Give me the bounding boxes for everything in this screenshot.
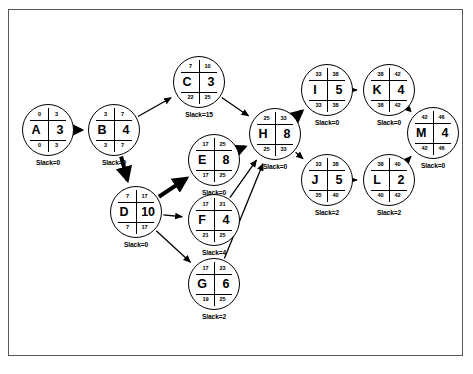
node-b-late-finish: 7 xyxy=(114,143,131,149)
node-e-duration: 8 xyxy=(215,154,237,166)
node-i-duration: 5 xyxy=(328,84,350,96)
node-d-duration: 10 xyxy=(137,206,159,218)
activity-node-d: 717D10717 xyxy=(110,186,162,238)
activity-node-k: 3842K43842 xyxy=(363,64,415,116)
node-j-late-finish: 40 xyxy=(327,193,344,199)
node-a-duration: 3 xyxy=(49,124,71,136)
activity-node-g: 1723G61925 xyxy=(188,258,240,310)
slack-label-l: Slack=2 xyxy=(353,209,425,216)
slack-label-h: Slack=0 xyxy=(239,163,311,170)
slack-label-b: Slack=0 xyxy=(78,159,150,166)
activity-node-l: 3840L24042 xyxy=(363,154,415,206)
node-g-early-start: 17 xyxy=(197,266,214,272)
activity-node-a: 03A303 xyxy=(22,104,74,156)
node-g-duration: 6 xyxy=(215,278,237,290)
node-b-duration: 4 xyxy=(115,124,137,136)
node-d-late-finish: 17 xyxy=(136,225,153,231)
node-b-early-start: 3 xyxy=(97,112,114,118)
slack-label-d: Slack=0 xyxy=(100,241,172,248)
node-d-late-start: 7 xyxy=(119,225,136,231)
activity-node-j: 3338J53540 xyxy=(301,154,353,206)
node-j-label: J xyxy=(304,174,326,186)
node-k-late-start: 38 xyxy=(372,103,389,109)
node-l-early-start: 38 xyxy=(372,162,389,168)
node-f-early-finish: 21 xyxy=(214,202,231,208)
node-b-early-finish: 7 xyxy=(114,112,131,118)
node-c-early-finish: 10 xyxy=(199,64,216,70)
node-i-label: I xyxy=(304,84,326,96)
node-i-late-finish: 38 xyxy=(327,103,344,109)
node-f-late-finish: 25 xyxy=(214,233,231,239)
activity-node-c: 710C32225 xyxy=(173,56,225,108)
node-c-late-start: 22 xyxy=(182,95,199,101)
node-f-duration: 4 xyxy=(215,214,237,226)
node-k-label: K xyxy=(366,84,388,96)
node-e-label: E xyxy=(191,154,213,166)
activity-node-h: 2533H82533 xyxy=(249,108,301,160)
node-g-late-start: 19 xyxy=(197,297,214,303)
node-c-label: C xyxy=(176,76,198,88)
node-k-duration: 4 xyxy=(390,84,412,96)
node-a-early-start: 0 xyxy=(31,112,48,118)
activity-node-f: 1721F42125 xyxy=(188,194,240,246)
node-e-late-finish: 25 xyxy=(214,173,231,179)
slack-label-f: Slack=4 xyxy=(178,249,250,256)
node-g-late-finish: 25 xyxy=(214,297,231,303)
node-d-early-finish: 17 xyxy=(136,194,153,200)
node-a-label: A xyxy=(25,124,47,136)
node-h-label: H xyxy=(252,128,274,140)
node-g-label: G xyxy=(191,278,213,290)
node-f-early-start: 17 xyxy=(197,202,214,208)
node-g-early-finish: 23 xyxy=(214,266,231,272)
node-k-early-start: 38 xyxy=(372,72,389,78)
node-m-label: M xyxy=(410,127,432,139)
node-f-label: F xyxy=(191,214,213,226)
node-h-duration: 8 xyxy=(276,128,298,140)
node-j-early-start: 33 xyxy=(310,162,327,168)
node-l-label: L xyxy=(366,174,388,186)
node-d-early-start: 7 xyxy=(119,194,136,200)
node-b-label: B xyxy=(91,124,113,136)
node-c-late-finish: 25 xyxy=(199,95,216,101)
node-h-early-start: 25 xyxy=(258,116,275,122)
node-h-late-finish: 33 xyxy=(275,147,292,153)
node-j-early-finish: 38 xyxy=(327,162,344,168)
node-k-late-finish: 42 xyxy=(389,103,406,109)
node-l-duration: 2 xyxy=(390,174,412,186)
node-k-early-finish: 42 xyxy=(389,72,406,78)
slack-label-a: Slack=0 xyxy=(12,159,84,166)
activity-node-b: 37B437 xyxy=(88,104,140,156)
node-b-late-start: 3 xyxy=(97,143,114,149)
node-a-late-finish: 3 xyxy=(48,143,65,149)
node-j-late-start: 35 xyxy=(310,193,327,199)
node-m-duration: 4 xyxy=(434,127,456,139)
node-d-label: D xyxy=(113,206,135,218)
slack-label-c: Slack=15 xyxy=(163,111,235,118)
activity-node-m: 4246M44246 xyxy=(407,107,459,159)
slack-label-g: Slack=2 xyxy=(178,313,250,320)
node-i-early-finish: 38 xyxy=(327,72,344,78)
node-a-late-start: 0 xyxy=(31,143,48,149)
node-l-late-finish: 42 xyxy=(389,193,406,199)
node-j-duration: 5 xyxy=(328,174,350,186)
node-i-early-start: 33 xyxy=(310,72,327,78)
node-e-early-start: 17 xyxy=(197,142,214,148)
activity-node-e: 1725E81725 xyxy=(188,134,240,186)
node-m-late-start: 42 xyxy=(416,146,433,152)
node-i-late-start: 33 xyxy=(310,103,327,109)
node-c-duration: 3 xyxy=(200,76,222,88)
activity-node-i: 3338I53338 xyxy=(301,64,353,116)
node-l-early-finish: 40 xyxy=(389,162,406,168)
node-l-late-start: 40 xyxy=(372,193,389,199)
node-m-early-start: 42 xyxy=(416,115,433,121)
node-a-early-finish: 3 xyxy=(48,112,65,118)
node-h-early-finish: 33 xyxy=(275,116,292,122)
node-c-early-start: 7 xyxy=(182,64,199,70)
node-h-late-start: 25 xyxy=(258,147,275,153)
node-f-late-start: 21 xyxy=(197,233,214,239)
node-e-early-finish: 25 xyxy=(214,142,231,148)
node-m-late-finish: 46 xyxy=(433,146,450,152)
node-e-late-start: 17 xyxy=(197,173,214,179)
node-m-early-finish: 46 xyxy=(433,115,450,121)
diagram-canvas: 03A303Slack=037B437Slack=0710C32225Slack… xyxy=(0,0,473,374)
